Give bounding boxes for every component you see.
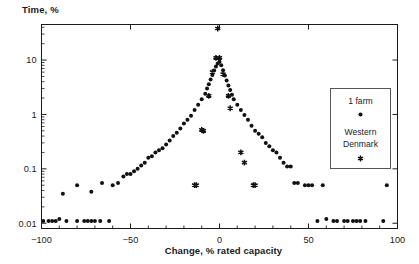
svg-text:−50: −50 (123, 235, 139, 245)
svg-text:1 farm: 1 farm (348, 96, 372, 106)
x-axis-title: Change, % rated capacity (137, 245, 283, 256)
scatter-plot-canvas: −100−500501000.010.1110 1 farmWesternDen… (0, 0, 419, 264)
svg-text:0: 0 (217, 235, 222, 245)
chart-figure: Time, % −100−500501000.010.1110 1 farmWe… (0, 0, 419, 264)
svg-text:Western: Western (345, 127, 377, 137)
series-star (192, 26, 258, 189)
svg-text:1: 1 (31, 110, 36, 120)
chart-legend[interactable]: 1 farmWesternDenmark (331, 89, 391, 169)
svg-text:Denmark: Denmark (343, 139, 379, 149)
svg-text:50: 50 (303, 235, 313, 245)
svg-text:0.01: 0.01 (19, 219, 37, 229)
y-axis-title: Time, % (22, 4, 59, 15)
svg-text:−100: −100 (31, 235, 52, 245)
svg-text:100: 100 (390, 235, 405, 245)
svg-text:10: 10 (26, 55, 36, 65)
svg-text:0.1: 0.1 (24, 164, 37, 174)
x-axis-title-wrap: Change, % rated capacity (0, 245, 419, 256)
